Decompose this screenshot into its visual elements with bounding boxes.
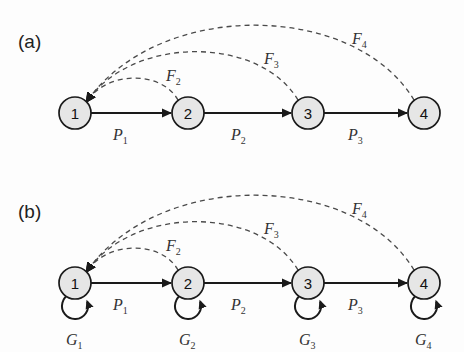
panel-caption: (b): [18, 201, 41, 222]
edge-label-subscript: 4: [362, 209, 367, 220]
edge-label-subscript: 3: [358, 305, 363, 316]
node-label: 4: [420, 275, 428, 292]
node-label: 3: [304, 105, 312, 122]
node-1[interactable]: 1: [59, 97, 91, 129]
forward-edge-label-p2: P2: [230, 126, 246, 146]
feedback-edge-label-f2: F2: [165, 67, 181, 87]
edge-label-subscript: 2: [176, 246, 181, 257]
edge-label-subscript: 1: [123, 305, 128, 316]
node-4[interactable]: 4: [408, 267, 440, 299]
edge-label-subscript: 2: [241, 305, 246, 316]
forward-edge-label-p1: P1: [112, 296, 128, 316]
node-3[interactable]: 3: [292, 97, 324, 129]
self-loop-label-g2: G2: [179, 331, 196, 351]
feedback-edge-f4: [87, 25, 415, 102]
edge-label-base: F: [165, 237, 176, 254]
self-loop-label-g1: G1: [66, 331, 83, 351]
forward-edge-label-p1: P1: [112, 126, 128, 146]
edge-label-subscript: 4: [362, 39, 367, 50]
forward-edge-label-p2: P2: [230, 296, 246, 316]
feedback-edge-f2: [87, 78, 179, 102]
edge-label-base: F: [165, 67, 176, 84]
node-4[interactable]: 4: [408, 97, 440, 129]
feedback-edge-f4: [87, 195, 415, 272]
edge-label-subscript: 1: [78, 340, 83, 351]
self-loop-label-g4: G4: [415, 331, 432, 351]
node-3[interactable]: 3: [292, 267, 324, 299]
forward-edge-label-p3: P3: [347, 296, 363, 316]
panel-a: (a)F2F3F4P1P2P31234: [18, 25, 440, 146]
edge-label-subscript: 4: [427, 340, 432, 351]
edge-label-base: P: [230, 126, 241, 143]
node-2[interactable]: 2: [172, 267, 204, 299]
edge-label-base: F: [351, 30, 362, 47]
node-label: 4: [420, 105, 428, 122]
self-loop-label-g3: G3: [299, 331, 316, 351]
node-2[interactable]: 2: [172, 97, 204, 129]
edge-label-subscript: 1: [123, 135, 128, 146]
panel-caption: (a): [18, 31, 41, 52]
feedback-edge-label-f3: F3: [263, 220, 279, 240]
edge-label-base: P: [112, 126, 123, 143]
node-label: 3: [304, 275, 312, 292]
edge-label-base: F: [263, 220, 274, 237]
node-label: 2: [184, 275, 192, 292]
edge-label-subscript: 3: [274, 229, 279, 240]
edge-label-subscript: 2: [176, 76, 181, 87]
edge-label-base: P: [230, 296, 241, 313]
node-label: 1: [71, 105, 79, 122]
edge-label-base: G: [66, 331, 78, 348]
edge-label-base: G: [415, 331, 427, 348]
panel-b: (b)F2F3F4P1P2P3G1G2G3G41234: [18, 195, 440, 351]
edge-label-subscript: 2: [191, 340, 196, 351]
edge-label-subscript: 2: [241, 135, 246, 146]
forward-edge-label-p3: P3: [347, 126, 363, 146]
edge-label-base: P: [112, 296, 123, 313]
edge-label-base: P: [347, 296, 358, 313]
node-1[interactable]: 1: [59, 267, 91, 299]
feedback-edge-f2: [87, 248, 179, 272]
signal-flow-graph: (a)F2F3F4P1P2P31234(b)F2F3F4P1P2P3G1G2G3…: [0, 0, 464, 352]
edge-label-base: F: [351, 200, 362, 217]
edge-label-subscript: 3: [358, 135, 363, 146]
edge-label-subscript: 3: [311, 340, 316, 351]
edge-label-base: F: [263, 50, 274, 67]
feedback-edge-label-f2: F2: [165, 237, 181, 257]
feedback-edge-label-f3: F3: [263, 50, 279, 70]
edge-label-base: G: [179, 331, 191, 348]
node-label: 1: [71, 275, 79, 292]
figure-canvas: (a)F2F3F4P1P2P31234(b)F2F3F4P1P2P3G1G2G3…: [0, 0, 464, 352]
edge-label-subscript: 3: [274, 59, 279, 70]
edge-label-base: P: [347, 126, 358, 143]
node-label: 2: [184, 105, 192, 122]
edge-label-base: G: [299, 331, 311, 348]
